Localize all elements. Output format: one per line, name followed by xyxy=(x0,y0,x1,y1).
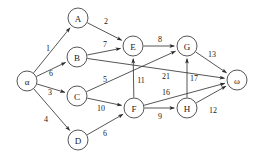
node-A[interactable]: A xyxy=(68,8,88,28)
node-label-D: D xyxy=(75,136,82,146)
node-B[interactable]: B xyxy=(67,47,87,67)
edge-H-to-omega xyxy=(196,86,226,103)
edge-B-to-E xyxy=(87,48,120,55)
edge-weight-B-E: 7 xyxy=(103,40,107,49)
node-label-H: H xyxy=(184,104,191,114)
node-label-F: F xyxy=(131,104,136,114)
edge-weight-H-G: 17 xyxy=(190,74,198,83)
node-label-G: G xyxy=(184,42,191,52)
node-alpha[interactable]: α xyxy=(17,71,37,91)
node-omega[interactable]: ω xyxy=(227,70,247,90)
edge-weight-alpha-C: 3 xyxy=(48,88,52,97)
edge-weight-alpha-B: 6 xyxy=(49,69,53,78)
node-G[interactable]: G xyxy=(177,36,197,56)
edge-weight-alpha-D: 4 xyxy=(44,115,48,124)
edge-weight-A-E: 2 xyxy=(104,17,108,26)
edge-weight-E-G: 8 xyxy=(158,35,162,44)
node-E[interactable]: E xyxy=(123,36,143,56)
edge-weight-C-G: 5 xyxy=(103,75,107,84)
edge-weight-B-omega: 21 xyxy=(162,72,170,81)
node-label-B: B xyxy=(74,53,80,63)
edge-weight-C-F: 10 xyxy=(97,104,105,113)
node-label-E: E xyxy=(130,42,136,52)
edge-F-to-E xyxy=(133,59,134,98)
node-label-omega: ω xyxy=(234,76,240,86)
graph-diagram-canvas: αABCDEFGHω 163427215106811916131712 xyxy=(0,0,258,159)
edge-weight-D-F: 6 xyxy=(103,129,107,138)
edge-alpha-to-A xyxy=(34,28,70,73)
edge-weight-F-omega: 16 xyxy=(162,88,170,97)
node-D[interactable]: D xyxy=(68,130,88,150)
edge-weight-alpha-A: 1 xyxy=(46,44,50,53)
edge-B-to-omega xyxy=(87,58,224,78)
graph-svg: αABCDEFGHω 163427215106811916131712 xyxy=(0,0,258,159)
node-C[interactable]: C xyxy=(67,86,87,106)
node-H[interactable]: H xyxy=(177,98,197,118)
edge-weight-F-H: 9 xyxy=(158,112,162,121)
edge-labels-layer: 163427215106811916131712 xyxy=(44,17,217,138)
edge-weight-G-omega: 13 xyxy=(208,50,216,59)
node-label-alpha: α xyxy=(25,77,30,87)
node-F[interactable]: F xyxy=(124,98,144,118)
node-label-C: C xyxy=(74,92,80,102)
node-label-A: A xyxy=(75,14,82,24)
nodes-layer: αABCDEFGHω xyxy=(17,8,247,150)
edge-weight-F-E: 11 xyxy=(137,76,145,85)
edge-weight-H-omega: 12 xyxy=(209,106,217,115)
